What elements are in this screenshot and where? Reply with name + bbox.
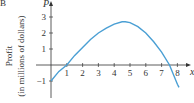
y-tick-label: 1: [42, 44, 47, 54]
y-tick-label: 3: [42, 12, 47, 22]
y-side-label-2: (in millions of dollars): [16, 15, 26, 96]
y-tick-label: −1: [36, 76, 46, 86]
x-tick-label: 7: [159, 68, 164, 78]
profit-chart: B Profit (in millions of dollars) P x 12…: [0, 0, 194, 103]
y-side-label-line2: (in millions of dollars): [16, 15, 26, 96]
x-tick-label: 3: [96, 68, 101, 78]
x-axis-name: x: [189, 66, 194, 77]
y-axis-name: P: [42, 0, 49, 9]
x-tick-label: 5: [128, 68, 133, 78]
x-tick-label: 6: [144, 68, 149, 78]
y-side-label-line1: Profit: [4, 45, 14, 66]
x-tick-label: 2: [80, 68, 85, 78]
y-axis-arrow-icon: [49, 1, 53, 6]
x-tick-label: 4: [112, 68, 117, 78]
y-ticks: −1123: [36, 12, 53, 86]
x-tick-label: 1: [65, 68, 70, 78]
y-side-label: Profit: [4, 45, 14, 66]
panel-label: B: [0, 0, 6, 8]
y-tick-label: 2: [42, 28, 47, 38]
x-tick-label: 8: [175, 68, 180, 78]
